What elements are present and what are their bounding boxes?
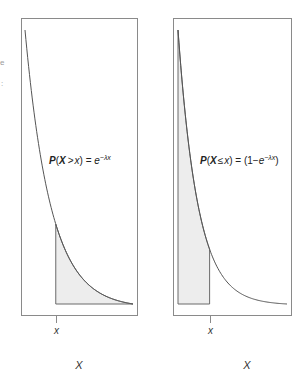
edge-fragment-1: e [0, 58, 5, 67]
annotation-right: P(X≤x) = (1−e−λx) [200, 154, 279, 166]
x-tick-label-left: x [53, 325, 60, 336]
plot-frame-left [22, 19, 138, 316]
annotation-left: P(X>x) = e−λx [49, 154, 111, 166]
x-axis-label-right: X [242, 359, 251, 371]
panel-left: x X P(X>x) = e−λx [22, 19, 138, 372]
shaded-region-left [56, 224, 133, 304]
shaded-region-right [178, 30, 210, 304]
chart-canvas: e : x X P(X>x) = e−λx x X P(X≤x) = (1−e−… [0, 0, 303, 378]
x-axis-label-left: X [74, 359, 83, 371]
panel-right: x X P(X≤x) = (1−e−λx) [174, 19, 292, 372]
edge-fragment-2: : [1, 79, 3, 88]
density-curve-left [25, 30, 133, 304]
x-tick-label-right: x [207, 325, 214, 336]
